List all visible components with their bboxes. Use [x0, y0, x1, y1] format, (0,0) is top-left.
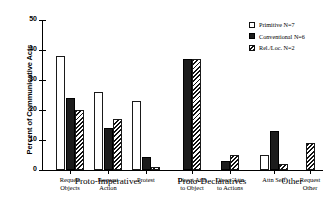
group-label: Other	[222, 176, 330, 186]
x-tick-mark	[230, 170, 231, 174]
y-tick-mark	[39, 80, 46, 81]
bar-primitive	[132, 101, 141, 170]
legend-label: Rel./Loc. N=2	[259, 44, 295, 51]
bar-relloc	[192, 59, 201, 170]
bar-primitive	[94, 92, 103, 170]
bar-relloc	[113, 119, 122, 170]
legend-item: Primitive N=7	[249, 19, 305, 31]
y-tick-label: 40	[29, 45, 37, 52]
bar-conventional	[104, 128, 113, 170]
y-axis-title: Percent of Communicative Acts	[25, 20, 34, 180]
bar-relloc	[230, 155, 239, 170]
bar-conventional	[183, 59, 192, 170]
y-tick-label: 10	[29, 135, 37, 142]
chart-legend: Primitive N=7Conventional N=6Rel./Loc. N…	[249, 19, 305, 54]
x-tick-mark	[192, 170, 193, 174]
y-tick-label: 0	[33, 165, 37, 172]
y-tick-label: 30	[29, 75, 37, 82]
bar-relloc	[75, 110, 84, 170]
legend-swatch-primitive	[249, 22, 255, 28]
y-tick-label: 20	[29, 105, 37, 112]
y-tick-mark	[39, 20, 46, 21]
bar-relloc	[151, 167, 160, 170]
x-tick-mark	[310, 170, 311, 174]
bar-primitive	[260, 155, 269, 170]
legend-item: Rel./Loc. N=2	[249, 42, 305, 54]
y-tick-mark	[39, 50, 46, 51]
bar-primitive	[56, 56, 65, 170]
legend-label: Primitive N=7	[259, 21, 295, 28]
y-tick-mark	[39, 170, 46, 171]
y-tick-label: 50	[29, 15, 37, 22]
y-axis-line	[42, 20, 43, 170]
y-tick-mark	[39, 140, 46, 141]
legend-swatch-relloc	[249, 45, 255, 51]
bar-relloc	[279, 164, 288, 170]
x-tick-mark	[70, 170, 71, 174]
bar-relloc	[306, 143, 315, 170]
legend-item: Conventional N=6	[249, 31, 305, 43]
legend-swatch-conventional	[249, 33, 255, 39]
legend-label: Conventional N=6	[259, 33, 305, 40]
x-tick-mark	[146, 170, 147, 174]
x-tick-mark	[108, 170, 109, 174]
bar-conventional	[66, 98, 75, 170]
bar-chart-figure: Percent of Communicative Acts 0102030405…	[0, 0, 330, 220]
bar-conventional	[142, 157, 151, 171]
bar-conventional	[221, 161, 230, 170]
y-tick-mark	[39, 110, 46, 111]
x-axis-line	[42, 170, 323, 171]
bar-conventional	[270, 131, 279, 170]
x-tick-mark	[274, 170, 275, 174]
